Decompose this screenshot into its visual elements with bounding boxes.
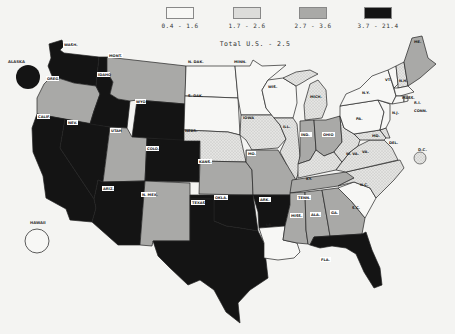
label-va: VA.: [362, 150, 369, 154]
alaska-label: ALASKA: [8, 59, 25, 64]
label-ri: R.I.: [414, 101, 421, 105]
label-nebr: NEBR.: [185, 129, 197, 133]
label-md: MD.: [372, 134, 380, 138]
label-wis: WIS.: [268, 85, 277, 89]
label-wash: WASH.: [64, 43, 78, 47]
label-ariz: ARIZ.: [103, 187, 114, 191]
label-sc: S.C.: [352, 206, 360, 210]
label-utah: UTAH: [111, 129, 122, 133]
label-conn: CONN.: [414, 109, 427, 113]
alaska-circle: [16, 65, 40, 89]
label-kans: KANS.: [199, 160, 212, 164]
alaska-inset: ALASKA: [8, 59, 40, 89]
label-wyo: WYO.: [136, 100, 147, 104]
label-del: DEL.: [389, 141, 398, 145]
label-ga: GA.: [331, 211, 338, 215]
label-ky: KY.: [306, 177, 312, 181]
hawaii-label: HAWAII: [30, 220, 46, 225]
label-ndak: N. DAK.: [188, 60, 204, 64]
label-mo: MO.: [248, 152, 256, 156]
label-mich: MICH.: [310, 95, 322, 99]
us-map: ALASKA HAWAII D.C.: [0, 0, 455, 334]
dc-inset: D.C.: [414, 147, 427, 164]
label-me: ME.: [414, 40, 421, 44]
state-mich: [304, 80, 327, 120]
label-nc: N.C.: [360, 183, 368, 187]
label-tenn: TENN.: [298, 196, 310, 200]
state-mass: [394, 86, 414, 96]
label-sdak: S. DAK.: [188, 94, 203, 98]
label-ny: N.Y.: [362, 91, 370, 95]
label-mass: MASS.: [402, 96, 415, 100]
label-mont: MONT.: [109, 54, 122, 58]
hawaii-circle: [25, 229, 49, 253]
label-pa: PA.: [356, 117, 363, 121]
label-ill: ILL.: [283, 125, 290, 129]
label-wva: W. VA.: [346, 152, 359, 156]
label-la: LA.: [266, 223, 273, 227]
dc-circle: [414, 152, 426, 164]
state-colo: [145, 138, 200, 182]
state-wyo: [132, 100, 185, 141]
label-ind: IND.: [301, 133, 310, 137]
state-ny: [340, 70, 396, 106]
hawaii-inset: HAWAII: [25, 220, 49, 253]
label-ark: ARK.: [260, 198, 270, 202]
label-fla: FLA.: [321, 258, 330, 262]
state-nmex: [140, 181, 190, 246]
label-nmex: N. MEX.: [142, 193, 158, 197]
label-texas: TEXAS: [192, 201, 205, 205]
state-ariz: [92, 180, 145, 245]
label-minn: MINN.: [234, 60, 246, 64]
label-colo: COLO.: [147, 147, 159, 151]
label-ohio: OHIO: [323, 133, 333, 137]
label-idaho: IDAHO: [98, 73, 111, 77]
label-nh: N.H.: [399, 79, 408, 83]
label-iowa: IOWA: [243, 116, 254, 120]
label-ala: ALA.: [311, 213, 320, 217]
label-nj: N.J.: [392, 111, 399, 115]
state-mont: [107, 57, 186, 104]
label-vt: VT.: [385, 78, 391, 82]
label-calif: CALIF.: [38, 115, 50, 119]
state-kans: [199, 161, 253, 195]
label-oreg: OREG.: [47, 77, 60, 81]
label-okla: OKLA.: [215, 196, 227, 200]
label-miss: MISS.: [291, 214, 302, 218]
dc-label: D.C.: [418, 147, 427, 152]
label-nev: NEV.: [68, 121, 77, 125]
